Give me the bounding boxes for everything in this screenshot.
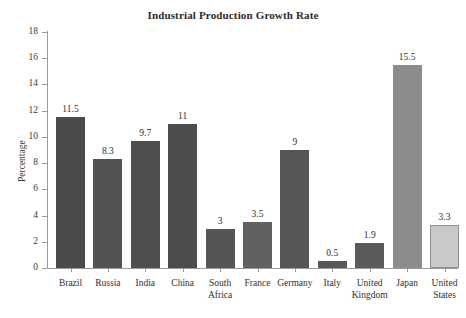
x-tick-mark [220,268,221,272]
y-tick-mark [42,268,47,269]
x-axis-label-line: States [421,289,466,301]
x-axis-label-line: Africa [197,289,244,301]
bar-italy[interactable] [318,261,347,268]
y-tick-2: 2 [0,242,47,243]
y-tick-mark [42,163,47,164]
y-tick-8: 8 [0,163,47,164]
chart-title: Industrial Production Growth Rate [0,9,466,22]
bar-value-label: 8.3 [85,146,130,156]
bar-value-label: 1.9 [347,230,392,240]
y-tick-label: 6 [33,183,38,193]
y-axis-line [47,31,48,269]
y-tick-mark [42,137,47,138]
bar-value-label: 9.7 [123,128,168,138]
y-tick-label: 14 [29,78,39,88]
x-axis-label-united-states: UnitedStates [421,277,466,301]
x-tick-mark [108,268,109,272]
y-tick-label: 18 [29,26,39,36]
bar-value-label: 11 [160,111,205,121]
x-tick-mark [71,268,72,272]
bar-south-africa[interactable] [206,229,235,268]
y-tick-4: 4 [0,216,47,217]
bar-united-states[interactable] [430,225,459,268]
bar-chart: Industrial Production Growth Rate Percen… [0,0,466,318]
bar-value-label: 0.5 [310,248,355,258]
bar-china[interactable] [168,124,197,268]
y-tick-16: 16 [0,58,47,59]
bar-india[interactable] [131,141,160,268]
y-tick-label: 8 [33,157,38,167]
x-tick-mark [370,268,371,272]
bar-value-label: 11.5 [48,104,93,114]
y-tick-label: 12 [29,105,39,115]
bar-value-label: 3.3 [422,212,466,222]
y-tick-14: 14 [0,84,47,85]
x-tick-mark [183,268,184,272]
bar-value-label: 3.5 [235,209,280,219]
y-tick-mark [42,32,47,33]
x-tick-mark [445,268,446,272]
x-axis-label-line: Kingdom [346,289,393,301]
x-tick-mark [295,268,296,272]
bar-brazil[interactable] [56,117,85,268]
bar-france[interactable] [243,222,272,268]
bar-value-label: 15.5 [385,52,430,62]
y-tick-mark [42,111,47,112]
x-tick-mark [407,268,408,272]
y-tick-mark [42,58,47,59]
x-axis-label-line: United [421,277,466,289]
y-tick-label: 4 [33,210,38,220]
y-tick-mark [42,84,47,85]
y-tick-18: 18 [0,32,47,33]
y-tick-mark [42,242,47,243]
y-tick-mark [42,189,47,190]
bar-united-kingdom[interactable] [355,243,384,268]
bar-value-label: 9 [272,137,317,147]
y-tick-label: 0 [33,262,38,272]
y-tick-label: 2 [33,236,38,246]
x-tick-mark [258,268,259,272]
x-tick-mark [332,268,333,272]
y-axis-label: Percentage [17,166,27,182]
y-tick-label: 16 [29,52,39,62]
y-tick-6: 6 [0,189,47,190]
x-tick-mark [145,268,146,272]
y-tick-label: 10 [29,131,39,141]
y-tick-mark [42,216,47,217]
y-tick-0: 0 [0,268,47,269]
bar-russia[interactable] [93,159,122,268]
bar-germany[interactable] [280,150,309,268]
y-tick-12: 12 [0,111,47,112]
bar-japan[interactable] [393,65,422,268]
y-tick-10: 10 [0,137,47,138]
